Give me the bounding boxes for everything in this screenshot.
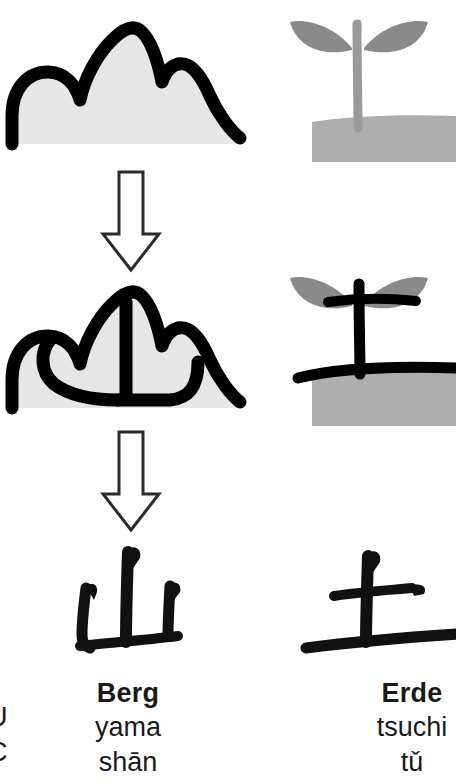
earth-labels: Erde tsuchi tǔ bbox=[312, 676, 456, 780]
earth-transition-stage bbox=[312, 268, 456, 428]
column-mountain: Berg yama shān bbox=[0, 0, 256, 784]
mountain-pictograph-stage bbox=[0, 4, 256, 164]
arrow-down-outline-icon bbox=[100, 170, 162, 274]
earth-label-japanese: tsuchi bbox=[312, 710, 456, 745]
mountain-labels: Berg yama shān bbox=[0, 676, 256, 780]
mountain-arrow-down-1 bbox=[100, 170, 162, 274]
mountain-transition-stage bbox=[0, 268, 256, 428]
mountain-label-german: Berg bbox=[0, 676, 256, 710]
sprout-transition-icon bbox=[312, 268, 456, 428]
column-earth: Erde tsuchi tǔ bbox=[312, 0, 456, 784]
diagram-page: U C bbox=[0, 0, 456, 784]
earth-label-mandarin: tǔ bbox=[312, 745, 456, 780]
earth-label-german: Erde bbox=[312, 676, 456, 710]
mountain-pictograph-icon bbox=[0, 4, 256, 164]
kanji-shan-icon bbox=[0, 530, 256, 675]
earth-pictograph-stage bbox=[312, 4, 456, 164]
mountain-label-mandarin: shān bbox=[0, 745, 256, 780]
mountain-label-japanese: yama bbox=[0, 710, 256, 745]
kanji-tu-icon bbox=[312, 530, 456, 675]
mountain-character-stage bbox=[0, 530, 256, 675]
earth-character-stage bbox=[312, 530, 456, 675]
sprout-pictograph-icon bbox=[312, 4, 456, 164]
arrow-down-outline-icon bbox=[100, 430, 162, 534]
mountain-transition-icon bbox=[0, 268, 256, 428]
mountain-arrow-down-2 bbox=[100, 430, 162, 534]
